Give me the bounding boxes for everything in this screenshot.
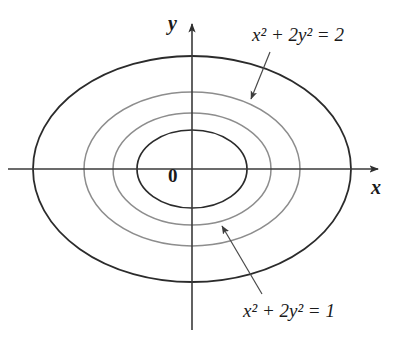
y-axis-label: y [168,12,177,35]
level-curves-figure [0,0,396,340]
outer-curve-equation-label: x² + 2y² = 2 [252,24,344,46]
origin-label: 0 [168,165,178,187]
x-axis-label: x [371,176,381,199]
outer-callout-leader [251,52,270,99]
inner-curve-equation-label: x² + 2y² = 1 [243,300,335,322]
inner-callout-leader [222,226,262,294]
